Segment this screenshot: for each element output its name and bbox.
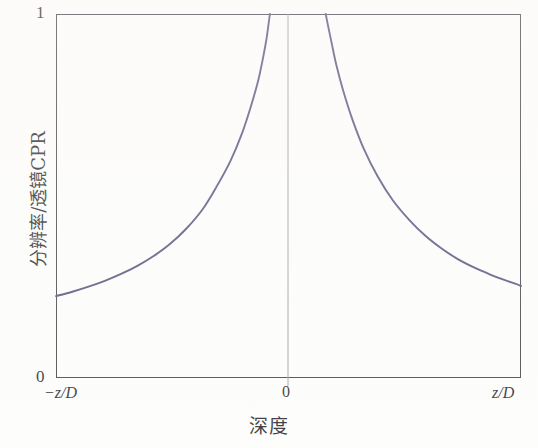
x-axis-tick-label-right: z/D bbox=[492, 385, 514, 401]
cpr-curve-right-branch bbox=[326, 14, 521, 286]
y-axis-tick-label-top: 1 bbox=[36, 4, 45, 21]
y-axis-title: 分辨率/透镜CPR bbox=[28, 131, 49, 267]
y-axis-tick-label-bottom: 0 bbox=[36, 368, 45, 385]
y-axis-title-container: 分辨率/透镜CPR bbox=[24, 84, 50, 314]
x-axis-tick-label-center: 0 bbox=[282, 384, 290, 400]
x-axis-title: 深度 bbox=[0, 411, 538, 438]
chart-figure: 1 0 −z/D 0 z/D 深度 分辨率/透镜CPR bbox=[0, 0, 538, 448]
chart-canvas bbox=[56, 14, 521, 378]
x-axis-tick-label-left: −z/D bbox=[44, 385, 77, 401]
cpr-curve-left-branch bbox=[56, 14, 270, 296]
